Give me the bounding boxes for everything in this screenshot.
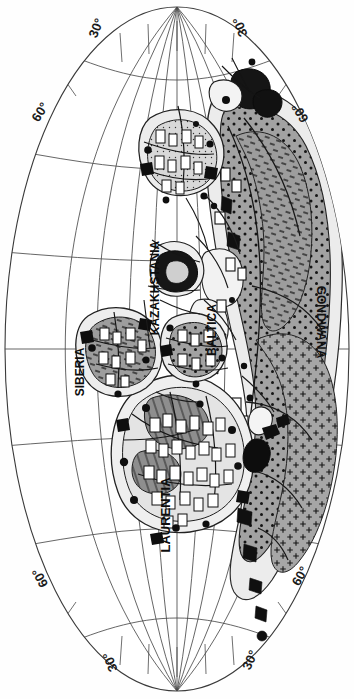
label-siberia: SIBERIA — [73, 348, 87, 397]
label-baltica: BALTICA — [205, 304, 219, 356]
paleogeographic-map: 30° 30° 60° 60° 60° 60° 30° 30° LAURENTI… — [0, 0, 354, 699]
label-gondwana: GONDWANA — [314, 286, 328, 359]
label-kazakhstania: KAZAKHSTANIA — [148, 241, 162, 335]
label-laurentia: LAURENTIA — [158, 477, 173, 552]
